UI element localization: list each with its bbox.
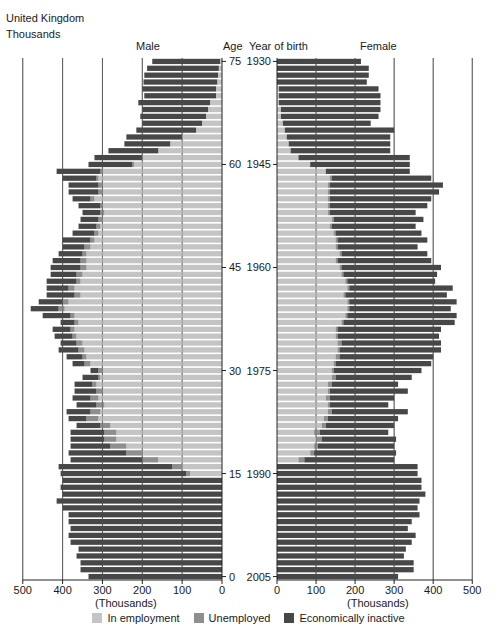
male-bar-inactive bbox=[31, 306, 59, 311]
male-bar-inactive bbox=[75, 382, 93, 387]
male-bar-employment bbox=[102, 182, 222, 187]
female-bar-unemployed bbox=[332, 375, 336, 380]
female-bar-unemployed bbox=[347, 306, 349, 311]
male-bar-inactive bbox=[71, 457, 143, 462]
male-bar-unemployed bbox=[98, 368, 102, 373]
year-tick-label: 1975 bbox=[247, 365, 271, 377]
female-bar-employment bbox=[277, 457, 298, 462]
female-bar-employment bbox=[277, 382, 328, 387]
male-bar-employment bbox=[98, 395, 222, 400]
female-bar-inactive bbox=[341, 265, 441, 270]
female-bar-inactive bbox=[291, 148, 391, 153]
female-bar-employment bbox=[277, 217, 332, 222]
male-bar-inactive bbox=[144, 93, 216, 98]
legend-swatch-unemployed bbox=[194, 613, 204, 623]
male-bar-employment bbox=[85, 347, 222, 352]
female-bar-inactive bbox=[279, 86, 379, 91]
male-bar-employment bbox=[202, 121, 222, 126]
male-bar-inactive bbox=[79, 224, 97, 229]
male-bar-inactive bbox=[83, 375, 99, 380]
female-bar-unemployed bbox=[341, 320, 343, 325]
male-bar-employment bbox=[96, 382, 222, 387]
female-bar-employment bbox=[277, 375, 332, 380]
female-bar-unemployed bbox=[328, 210, 330, 215]
male-bar-inactive bbox=[71, 443, 111, 448]
male-bar-inactive bbox=[53, 327, 71, 332]
male-bar-unemployed bbox=[77, 279, 81, 284]
female-bar-inactive bbox=[277, 512, 420, 517]
female-bar-inactive bbox=[277, 540, 412, 545]
male-bar-unemployed bbox=[172, 464, 182, 469]
female-bar-inactive bbox=[349, 306, 451, 311]
female-bar-unemployed bbox=[347, 299, 349, 304]
male-bar-inactive bbox=[57, 169, 101, 174]
male-bar-unemployed bbox=[77, 340, 83, 345]
male-bar-unemployed bbox=[98, 182, 102, 187]
male-bar-unemployed bbox=[71, 327, 75, 332]
male-bar-unemployed bbox=[73, 334, 77, 339]
female-bar-employment bbox=[277, 313, 345, 318]
male-bar-unemployed bbox=[90, 237, 94, 242]
male-bar-inactive bbox=[57, 498, 222, 503]
female-bar-employment bbox=[277, 361, 334, 366]
male-bar-employment bbox=[83, 340, 222, 345]
female-bar-inactive bbox=[277, 560, 414, 565]
male-bar-employment bbox=[75, 327, 222, 332]
male-bar-employment bbox=[217, 79, 222, 84]
male-bar-inactive bbox=[77, 553, 222, 558]
female-bar-inactive bbox=[279, 93, 381, 98]
male-bar-inactive bbox=[69, 512, 222, 517]
male-bar-employment bbox=[104, 402, 222, 407]
female-bar-employment bbox=[277, 340, 338, 345]
female-bar-employment bbox=[277, 320, 341, 325]
female-bar-unemployed bbox=[322, 423, 326, 428]
female-bar-employment bbox=[277, 162, 310, 167]
male-bar-employment bbox=[182, 134, 222, 139]
male-bar-employment bbox=[102, 203, 222, 208]
male-bar-employment bbox=[81, 292, 222, 297]
male-bar-unemployed bbox=[87, 416, 99, 421]
female-bar-unemployed bbox=[339, 251, 341, 256]
male-bar-unemployed bbox=[96, 176, 98, 181]
female-bar-inactive bbox=[277, 574, 398, 579]
female-bar-unemployed bbox=[332, 368, 334, 373]
female-bar-employment bbox=[277, 258, 336, 263]
male-bar-employment bbox=[206, 114, 222, 119]
legend-swatch-inactive bbox=[284, 613, 294, 623]
x-unit-right: (Thousands) bbox=[347, 597, 409, 609]
male-bar-inactive bbox=[59, 464, 173, 469]
female-bar-employment bbox=[277, 279, 345, 284]
male-bar-inactive bbox=[81, 567, 222, 572]
year-tick-label: 1960 bbox=[247, 261, 271, 273]
male-bar-inactive bbox=[59, 251, 83, 256]
female-bar-employment bbox=[277, 437, 316, 442]
male-bar-unemployed bbox=[100, 423, 110, 428]
male-bar-inactive bbox=[143, 79, 217, 84]
male-bar-inactive bbox=[142, 107, 208, 112]
female-bar-inactive bbox=[277, 471, 418, 476]
male-bar-inactive bbox=[53, 258, 81, 263]
male-bar-inactive bbox=[152, 59, 220, 64]
male-bar-inactive bbox=[73, 196, 91, 201]
male-bar-inactive bbox=[69, 189, 99, 194]
female-bar-inactive bbox=[339, 347, 441, 352]
x-tick-label-male: 300 bbox=[93, 584, 111, 596]
male-bar-employment bbox=[126, 443, 222, 448]
female-bar-unemployed bbox=[334, 231, 336, 236]
female-bar-employment bbox=[277, 231, 334, 236]
male-bar-unemployed bbox=[142, 457, 158, 462]
male-bar-unemployed bbox=[79, 347, 85, 352]
female-bar-unemployed bbox=[336, 244, 338, 249]
female-bar-employment bbox=[277, 114, 281, 119]
female-bar-employment bbox=[277, 395, 326, 400]
male-bar-inactive bbox=[77, 423, 101, 428]
male-bar-inactive bbox=[71, 540, 222, 545]
male-bar-inactive bbox=[61, 485, 222, 490]
male-bar-employment bbox=[218, 73, 222, 78]
female-bar-inactive bbox=[277, 533, 416, 538]
female-bar-inactive bbox=[277, 464, 418, 469]
male-bar-inactive bbox=[39, 299, 63, 304]
male-bar-employment bbox=[102, 169, 222, 174]
female-bar-inactive bbox=[341, 251, 427, 256]
female-bar-inactive bbox=[277, 546, 406, 551]
